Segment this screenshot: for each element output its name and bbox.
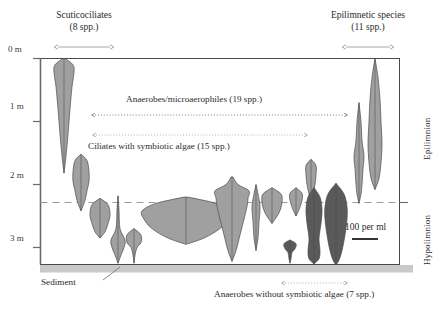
axis-tick-label-2m: 2 m: [10, 170, 24, 180]
axis-tick-label-1m: 1 m: [10, 101, 24, 111]
group-title-scuticociliates: Scuticociliates (8 spp.): [36, 10, 132, 33]
label-sediment: Sediment: [41, 277, 76, 287]
stratum-label-hypolimnion: Hypolimnion: [422, 215, 432, 265]
sediment-band: [40, 265, 413, 280]
axis-tick-label-3m: 3 m: [10, 233, 24, 243]
axis-tick-label-0m: 0 m: [8, 44, 22, 54]
depth-axis: [33, 59, 41, 265]
scale-bar-label: 100 per ml: [345, 222, 386, 232]
label-anaerobes-no-symbiotic: Anaerobes without symbiotic algae (7 spp…: [214, 289, 374, 299]
stratum-label-epilimnion: Epilimnion: [422, 118, 432, 161]
figure-canvas: [0, 0, 443, 313]
scuticociliates-name: Scuticociliates: [36, 10, 132, 22]
epilimnetic-count: (11 spp.): [320, 22, 416, 34]
scuticociliates-count: (8 spp.): [36, 22, 132, 34]
epilimnetic-name: Epilimnetic species: [320, 10, 416, 22]
group-title-epilimnetic: Epilimnetic species (11 spp.): [320, 10, 416, 33]
plot-frame: [41, 59, 400, 265]
label-anaerobes-microaerophiles: Anaerobes/microaerophiles (19 spp.): [126, 94, 262, 104]
depth-profile-figure: Scuticociliates (8 spp.) Epilimnetic spe…: [0, 0, 443, 313]
label-ciliates-symbiotic: Ciliates with symbiotic algae (15 spp.): [88, 141, 230, 151]
